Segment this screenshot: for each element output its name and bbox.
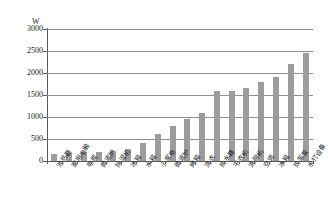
bar-slot bbox=[150, 29, 165, 161]
x-axis-tick-mark bbox=[121, 161, 122, 164]
x-axis-tick-labels: 池热器家用电脑电视微波炉除湿机冰箱水箱小家电微波炉烤箱洗衣热水器干衣机洗碗机空调… bbox=[47, 164, 313, 214]
bar-slot bbox=[239, 29, 254, 161]
bar-slot bbox=[224, 29, 239, 161]
x-axis-tick-mark bbox=[210, 161, 211, 164]
bar-slot bbox=[106, 29, 121, 161]
bar-slot bbox=[165, 29, 180, 161]
y-axis-tick-label: 500 bbox=[31, 135, 43, 143]
x-axis-tick-mark bbox=[195, 161, 196, 164]
x-axis-tick-mark bbox=[313, 161, 314, 164]
bar[interactable] bbox=[288, 64, 294, 161]
bar-slot bbox=[298, 29, 313, 161]
y-axis-tick-label: 2000 bbox=[27, 69, 43, 77]
x-axis-tick-mark bbox=[224, 161, 225, 164]
bar-slot bbox=[47, 29, 62, 161]
x-axis-tick-mark bbox=[77, 161, 78, 164]
y-axis-tick-mark bbox=[43, 51, 47, 52]
y-axis-tick-mark bbox=[43, 29, 47, 30]
x-axis-tick-mark bbox=[150, 161, 151, 164]
x-axis-tick-mark bbox=[47, 161, 48, 164]
bar-slot bbox=[195, 29, 210, 161]
bar[interactable] bbox=[199, 113, 205, 161]
x-axis-tick-mark bbox=[269, 161, 270, 164]
bar-slot bbox=[180, 29, 195, 161]
y-axis-tick-mark bbox=[43, 117, 47, 118]
bar-slot bbox=[91, 29, 106, 161]
y-axis-tick-label: 3000 bbox=[27, 25, 43, 33]
x-axis-tick-mark bbox=[298, 161, 299, 164]
bar[interactable] bbox=[303, 53, 309, 161]
x-axis-tick-mark bbox=[283, 161, 284, 164]
x-axis-tick-mark bbox=[62, 161, 63, 164]
x-axis-tick-mark bbox=[106, 161, 107, 164]
x-axis-tick-mark bbox=[180, 161, 181, 164]
y-axis-tick-mark bbox=[43, 95, 47, 96]
bar-slot bbox=[269, 29, 284, 161]
bar-slot bbox=[210, 29, 225, 161]
y-axis-tick-mark bbox=[43, 139, 47, 140]
bar-slot bbox=[136, 29, 151, 161]
bar-slot bbox=[62, 29, 77, 161]
bar-slot bbox=[254, 29, 269, 161]
bar[interactable] bbox=[214, 91, 220, 161]
y-axis-tick-labels: 300025002000150010005000 bbox=[0, 29, 43, 161]
bar[interactable] bbox=[51, 154, 57, 161]
y-axis-tick-mark bbox=[43, 73, 47, 74]
bar-slot bbox=[121, 29, 136, 161]
x-axis-tick-mark bbox=[254, 161, 255, 164]
x-axis-tick-mark bbox=[136, 161, 137, 164]
y-axis-tick-label: 1500 bbox=[27, 91, 43, 99]
bars-group bbox=[47, 29, 313, 161]
y-axis-tick-label: 1000 bbox=[27, 113, 43, 121]
x-axis-tick-mark bbox=[239, 161, 240, 164]
bar-slot bbox=[283, 29, 298, 161]
y-axis-tick-label: 2500 bbox=[27, 47, 43, 55]
bar[interactable] bbox=[273, 77, 279, 161]
x-axis-tick-mark bbox=[165, 161, 166, 164]
x-axis-tick-mark bbox=[91, 161, 92, 164]
